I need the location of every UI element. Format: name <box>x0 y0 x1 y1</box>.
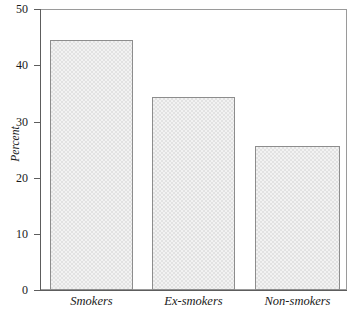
x-tick-label-non-smokers: Non-smokers <box>255 294 340 309</box>
bar-ex-smokers <box>152 97 235 290</box>
y-tick-mark <box>34 178 40 179</box>
y-axis-line <box>40 9 41 291</box>
bar-non-smokers <box>255 146 340 290</box>
y-tick-label-40: 40 <box>16 59 28 71</box>
y-tick-mark <box>34 9 40 10</box>
x-tick-label-smokers: Smokers <box>50 294 133 309</box>
bar-smokers <box>50 40 133 290</box>
figure-bar-chart: 0 10 20 30 40 50 Percent Smokers Ex-smok… <box>0 0 360 320</box>
y-tick-label-0: 0 <box>22 284 28 296</box>
x-tick-label-ex-smokers: Ex-smokers <box>152 294 235 309</box>
x-axis-line <box>40 290 347 291</box>
caption-fragment <box>42 314 252 320</box>
y-tick-mark <box>34 65 40 66</box>
y-tick-label-50: 50 <box>16 3 28 15</box>
y-tick-mark <box>34 234 40 235</box>
y-axis-title: Percent <box>9 109 21 179</box>
y-tick-mark <box>34 122 40 123</box>
y-tick-label-10: 10 <box>16 228 28 240</box>
y-tick-mark <box>34 290 40 291</box>
